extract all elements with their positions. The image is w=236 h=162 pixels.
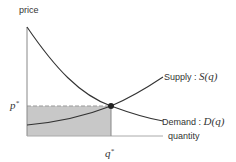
y-axis-label: price xyxy=(19,5,39,15)
q-star-label: q* xyxy=(105,147,115,159)
demand-label: Demand : D(q) xyxy=(162,115,225,128)
supply-label: Supply : S(q) xyxy=(164,70,218,83)
x-axis-label: quantity xyxy=(168,131,200,141)
supply-demand-diagram: price quantity Supply : S(q) Demand : D(… xyxy=(0,0,236,162)
equilibrium-point xyxy=(108,103,114,109)
p-star-label: p* xyxy=(9,99,20,111)
